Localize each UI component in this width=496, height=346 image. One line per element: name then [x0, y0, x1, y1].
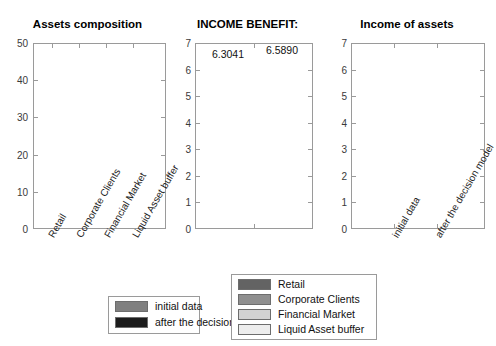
xtick-mark [106, 43, 107, 48]
ytick-mark [33, 192, 38, 193]
legend-swatch-retail [238, 279, 271, 290]
legend-item-initial-data: initial data [115, 301, 202, 312]
legend-label-initial-data: initial data [155, 301, 202, 312]
legend-swatch-initial-data [115, 301, 148, 312]
legend-asset-classes: Retail Corporate Clients Financial Marke… [231, 274, 377, 340]
legend-label-financial-market: Financial Market [278, 309, 355, 320]
ytick-mark [161, 80, 166, 81]
ytick-mark [351, 123, 356, 124]
ytick-mark [351, 96, 356, 97]
ytick-mark [308, 70, 313, 71]
ytick-label-4: 4 [168, 117, 191, 128]
xtick-mark [79, 43, 80, 48]
ytick-mark [351, 202, 356, 203]
ytick-mark [351, 149, 356, 150]
legend-item-corporate-clients: Corporate Clients [238, 294, 360, 305]
ytick-label-4: 4 [325, 117, 347, 128]
ytick-label-5: 5 [168, 91, 191, 102]
ytick-mark [480, 123, 485, 124]
xtick-mark [254, 224, 255, 229]
bar-value-label-after: 6.5890 [250, 44, 314, 56]
legend-swatch-corporate-clients [238, 294, 271, 305]
ytick-label-40: 40 [0, 75, 28, 86]
legend-item-financial-market: Financial Market [238, 309, 355, 320]
ytick-label-3: 3 [168, 144, 191, 155]
ytick-mark [480, 70, 485, 71]
legend-swatch-after-decision-model [115, 317, 148, 328]
ytick-mark [351, 176, 356, 177]
ytick-mark [308, 149, 313, 150]
chart-title-line1: Assets composition [33, 18, 142, 30]
ytick-mark [308, 202, 313, 203]
legend-series: initial data after the decision model [108, 296, 200, 334]
ytick-mark [480, 96, 485, 97]
ytick-mark [195, 202, 200, 203]
ytick-mark [308, 123, 313, 124]
legend-label-liquid-asset-buffer: Liquid Asset buffer [278, 324, 364, 335]
ytick-label-30: 30 [0, 112, 28, 123]
xtick-mark [133, 43, 134, 48]
ytick-label-0: 0 [325, 224, 347, 235]
legend-item-retail: Retail [238, 279, 305, 290]
ytick-mark [33, 80, 38, 81]
legend-label-retail: Retail [278, 279, 305, 290]
ytick-label-6: 6 [325, 64, 347, 75]
ytick-mark [195, 149, 200, 150]
ytick-label-7: 7 [325, 38, 347, 49]
chart-title-line1: Income of assets [360, 18, 453, 30]
ytick-label-1: 1 [168, 197, 191, 208]
xtick-mark [437, 43, 438, 48]
ytick-mark [308, 176, 313, 177]
legend-swatch-financial-market [238, 309, 271, 320]
xtick-mark [394, 43, 395, 48]
ytick-mark [480, 176, 485, 177]
ytick-mark [195, 96, 200, 97]
plot-area-income-benefit [195, 43, 313, 229]
ytick-mark [161, 117, 166, 118]
xtick-mark [52, 43, 53, 48]
ytick-mark [33, 155, 38, 156]
ytick-mark [308, 96, 313, 97]
ytick-label-2: 2 [325, 170, 347, 181]
ytick-mark [33, 117, 38, 118]
legend-swatch-liquid-asset-buffer [238, 324, 271, 335]
ytick-label-1: 1 [325, 197, 347, 208]
chart-title-line1: INCOME BENEFIT: [197, 18, 298, 30]
ytick-label-50: 50 [0, 38, 28, 49]
legend-label-corporate-clients: Corporate Clients [278, 294, 360, 305]
ytick-mark [351, 70, 356, 71]
ytick-label-0: 0 [0, 224, 28, 235]
legend-item-liquid-asset-buffer: Liquid Asset buffer [238, 324, 364, 335]
ytick-mark [195, 70, 200, 71]
ytick-label-0: 0 [168, 224, 191, 235]
ytick-label-3: 3 [325, 144, 347, 155]
ytick-label-20: 20 [0, 149, 28, 160]
ytick-label-5: 5 [325, 91, 347, 102]
ytick-mark [161, 155, 166, 156]
ytick-label-7: 7 [168, 38, 191, 49]
ytick-mark [195, 176, 200, 177]
ytick-mark [195, 123, 200, 124]
ytick-label-10: 10 [0, 186, 28, 197]
ytick-label-6: 6 [168, 64, 191, 75]
ytick-label-2: 2 [168, 170, 191, 181]
ytick-mark [480, 202, 485, 203]
